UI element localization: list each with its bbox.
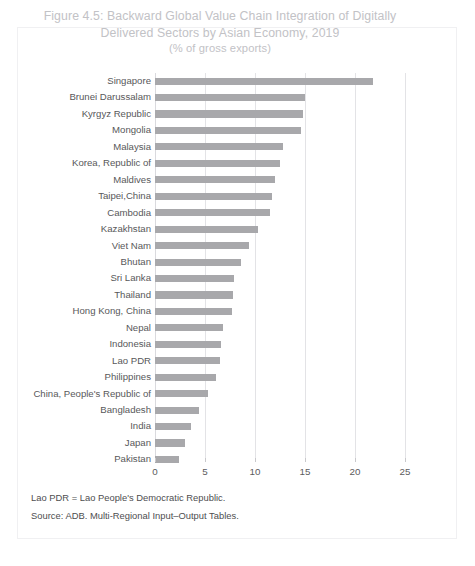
category-label: Brunei Darussalam bbox=[69, 89, 151, 105]
bar bbox=[155, 176, 275, 183]
bar bbox=[155, 275, 234, 282]
x-tick-label: 5 bbox=[202, 466, 207, 477]
figure-title-line2: Delivered Sectors by Asian Economy, 2019 bbox=[28, 25, 412, 42]
bar bbox=[155, 193, 272, 200]
figure-footnotes: Lao PDR = Lao People's Democratic Republ… bbox=[31, 489, 431, 524]
bar bbox=[155, 143, 283, 150]
chart-plot-area: SingaporeBrunei DarussalamKyrgyz Republi… bbox=[155, 73, 405, 458]
bar-row: Cambodia bbox=[155, 205, 405, 221]
category-label: Lao PDR bbox=[112, 353, 151, 369]
category-label: Philippines bbox=[105, 369, 151, 385]
bar-row: Japan bbox=[155, 435, 405, 451]
bar-row: Mongolia bbox=[155, 122, 405, 138]
bar-row: Taipei,China bbox=[155, 188, 405, 204]
bar-row: Bangladesh bbox=[155, 402, 405, 418]
bar-row: Maldives bbox=[155, 172, 405, 188]
bar bbox=[155, 78, 373, 85]
figure-subtitle: (% of gross exports) bbox=[28, 41, 412, 56]
category-label: Sri Lanka bbox=[110, 270, 151, 286]
bar bbox=[155, 127, 301, 134]
figure-page: { "figure": { "title_line1": "Figure 4.5… bbox=[0, 0, 475, 566]
bar-row: Philippines bbox=[155, 369, 405, 385]
category-label: Cambodia bbox=[107, 205, 151, 221]
bar-row: Nepal bbox=[155, 320, 405, 336]
category-label: Maldives bbox=[113, 172, 151, 188]
figure-title-line1: Figure 4.5: Backward Global Value Chain … bbox=[28, 8, 412, 25]
x-tick-label: 20 bbox=[350, 466, 361, 477]
bar-row: Indonesia bbox=[155, 336, 405, 352]
category-label: Thailand bbox=[114, 287, 151, 303]
x-tickmark-25 bbox=[405, 458, 406, 462]
footnote-source: Source: ADB. Multi-Regional Input–Output… bbox=[31, 507, 431, 525]
bar-row: Lao PDR bbox=[155, 353, 405, 369]
x-tick-label: 0 bbox=[152, 466, 157, 477]
x-tickmark-20 bbox=[355, 458, 356, 462]
bar bbox=[155, 374, 216, 381]
category-label: Kazakhstan bbox=[101, 221, 151, 237]
bar bbox=[155, 110, 303, 117]
bar bbox=[155, 308, 232, 315]
bar-row: Viet Nam bbox=[155, 238, 405, 254]
bar bbox=[155, 439, 185, 446]
bar bbox=[155, 407, 199, 414]
bar bbox=[155, 324, 223, 331]
x-tick-label: 10 bbox=[250, 466, 261, 477]
bar-row: Sri Lanka bbox=[155, 270, 405, 286]
category-label: Malaysia bbox=[113, 139, 151, 155]
x-tickmark-15 bbox=[305, 458, 306, 462]
bar-row: Bhutan bbox=[155, 254, 405, 270]
bar-row: Brunei Darussalam bbox=[155, 89, 405, 105]
category-label: China, People's Republic of bbox=[33, 386, 151, 402]
x-axis-labels: 0510152025 bbox=[155, 466, 405, 482]
category-label: Bhutan bbox=[121, 254, 151, 270]
x-tickmark-0 bbox=[155, 458, 156, 462]
category-label: Viet Nam bbox=[112, 238, 151, 254]
x-tickmark-5 bbox=[205, 458, 206, 462]
x-tick-label: 15 bbox=[300, 466, 311, 477]
bar bbox=[155, 160, 280, 167]
bar bbox=[155, 226, 258, 233]
bar-row: Malaysia bbox=[155, 139, 405, 155]
bar bbox=[155, 291, 233, 298]
bar-row: Singapore bbox=[155, 73, 405, 89]
gridline-25 bbox=[405, 73, 406, 458]
x-tickmark-10 bbox=[255, 458, 256, 462]
x-tick-label: 25 bbox=[400, 466, 411, 477]
category-label: Singapore bbox=[107, 73, 151, 89]
category-label: Taipei,China bbox=[98, 188, 151, 204]
figure-title: Figure 4.5: Backward Global Value Chain … bbox=[28, 8, 412, 56]
bar bbox=[155, 341, 221, 348]
bar bbox=[155, 390, 208, 397]
bar-row: Kyrgyz Republic bbox=[155, 106, 405, 122]
category-label: Kyrgyz Republic bbox=[82, 106, 151, 122]
bar-row: Kazakhstan bbox=[155, 221, 405, 237]
category-label: Hong Kong, China bbox=[73, 303, 151, 319]
bar-row: India bbox=[155, 418, 405, 434]
category-label: Nepal bbox=[126, 320, 151, 336]
footnote-abbreviation: Lao PDR = Lao People's Democratic Republ… bbox=[31, 489, 431, 507]
category-label: Japan bbox=[125, 435, 151, 451]
category-label: Bangladesh bbox=[100, 402, 151, 418]
bar bbox=[155, 357, 220, 364]
bar bbox=[155, 209, 270, 216]
bar bbox=[155, 423, 191, 430]
category-label: Mongolia bbox=[112, 122, 151, 138]
category-label: India bbox=[130, 418, 151, 434]
category-label: Korea, Republic of bbox=[72, 155, 151, 171]
bar-row: China, People's Republic of bbox=[155, 386, 405, 402]
bar bbox=[155, 94, 305, 101]
bar bbox=[155, 259, 241, 266]
bar bbox=[155, 242, 249, 249]
bar-row: Korea, Republic of bbox=[155, 155, 405, 171]
category-label: Indonesia bbox=[109, 336, 151, 352]
bar-row: Hong Kong, China bbox=[155, 303, 405, 319]
bar-row: Thailand bbox=[155, 287, 405, 303]
category-label: Pakistan bbox=[114, 451, 151, 467]
